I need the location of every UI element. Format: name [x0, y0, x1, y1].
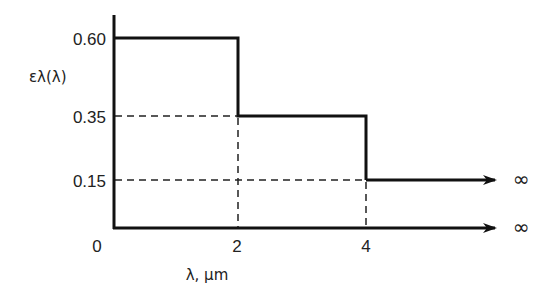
y-axis-label: ελ(λ): [29, 68, 67, 86]
dashed-guides: [115, 116, 366, 227]
y-tick-035: 0.35: [73, 108, 106, 127]
step-line: [114, 38, 366, 180]
x-axis-label: λ, μm: [186, 266, 229, 284]
infinity-label-lower: ∞: [513, 215, 530, 239]
x-tick-0: 0: [92, 237, 101, 256]
step-chart: 0.60 0.35 0.15 ελ(λ) 0 2 4 λ, μm ∞ ∞: [0, 0, 557, 307]
x-tick-2: 2: [232, 237, 241, 256]
x-tick-4: 4: [361, 237, 370, 256]
infinity-label-upper: ∞: [513, 167, 530, 191]
y-tick-060: 0.60: [73, 30, 106, 49]
y-tick-015: 0.15: [73, 172, 106, 191]
